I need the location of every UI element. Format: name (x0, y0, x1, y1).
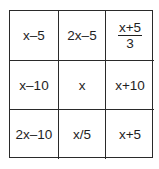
fraction: x+5 3 (118, 20, 142, 51)
cell-r1-c2: 2x–5 (59, 11, 106, 61)
cell-r3-c3: x+5 (106, 110, 154, 159)
fraction-denominator: 3 (126, 36, 134, 51)
cell-r2-c1: x–10 (10, 61, 59, 110)
cell-r2-c3: x+10 (106, 61, 154, 110)
cell-r1-c3: x+5 3 (106, 11, 154, 61)
cell-r3-c1: 2x–10 (10, 110, 59, 159)
cell-r2-c2: x (59, 61, 106, 110)
expression-grid: x–5 2x–5 x+5 3 x–10 x x+10 2x–10 x/5 x+5 (9, 10, 153, 158)
cell-r1-c1: x–5 (10, 11, 59, 61)
cell-r3-c2: x/5 (59, 110, 106, 159)
fraction-numerator: x+5 (118, 20, 142, 36)
